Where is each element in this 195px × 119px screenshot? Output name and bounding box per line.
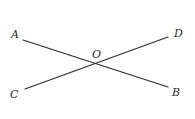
diagram-canvas: A B C D O (0, 0, 195, 119)
line-segment-cd (25, 37, 168, 89)
intersecting-lines-diagram: A B C D O (0, 0, 195, 119)
point-label-d: D (173, 27, 183, 40)
point-label-b: B (171, 86, 180, 99)
intersection-label-o: O (92, 48, 101, 61)
point-label-a: A (10, 28, 19, 41)
point-label-c: C (10, 88, 19, 101)
